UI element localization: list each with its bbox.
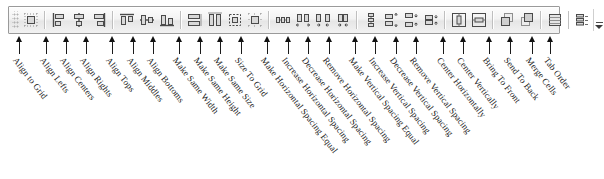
align-bottoms-icon	[159, 12, 175, 28]
center-horizontally-icon	[451, 12, 467, 28]
toolbar-overflow-chevron-icon[interactable]	[593, 9, 604, 31]
toolbar-button-remove-horizontal-spacing[interactable]	[333, 9, 353, 31]
callout-arrow	[547, 36, 554, 54]
center-vertically-icon	[471, 12, 487, 28]
toolbar-button-bring-to-front[interactable]	[497, 9, 517, 31]
callout-arrow	[285, 36, 292, 54]
toolbar-button-make-vertical-spacing-equal[interactable]	[361, 9, 381, 31]
callout-arrow	[109, 36, 116, 54]
toolbar-separator	[356, 11, 358, 29]
callout-arrow	[83, 36, 90, 54]
remove-horizontal-spacing-icon	[335, 12, 351, 28]
callout-arrow	[197, 36, 204, 54]
toolbar-button-decrease-horizontal-spacing[interactable]	[313, 9, 333, 31]
decrease-horizontal-spacing-icon	[315, 12, 331, 28]
toolbar-button-align-bottoms[interactable]	[157, 9, 177, 31]
bring-to-front-icon	[499, 12, 515, 28]
make-same-height-icon	[207, 12, 223, 28]
callout-arrow	[43, 36, 50, 54]
remove-vertical-spacing-icon	[423, 12, 439, 28]
toolbar-button-align-tops[interactable]	[117, 9, 137, 31]
decrease-vertical-spacing-icon	[403, 12, 419, 28]
toolbar-button-align-middles[interactable]	[137, 9, 157, 31]
toolbar-button-center-vertically[interactable]	[469, 9, 489, 31]
make-horizontal-spacing-equal-icon	[275, 12, 291, 28]
toolbar-button-make-same-width[interactable]	[185, 9, 205, 31]
toolbar-separator	[112, 11, 114, 29]
align-tops-icon	[119, 12, 135, 28]
callout-arrow	[16, 36, 23, 54]
toolbar-separator	[268, 11, 270, 29]
align-to-grid-icon	[23, 12, 39, 28]
increase-vertical-spacing-icon	[383, 12, 399, 28]
callout-arrow	[238, 36, 245, 54]
toolbar-button-make-horizontal-spacing-equal[interactable]	[273, 9, 293, 31]
align-rights-icon	[91, 12, 107, 28]
align-centers-icon	[71, 12, 87, 28]
callout-arrow	[176, 36, 183, 54]
callout-arrow	[326, 36, 333, 54]
toolbar-separator	[492, 11, 494, 29]
callout-arrow	[529, 36, 536, 54]
increase-horizontal-spacing-icon	[295, 12, 311, 28]
toolbar-separator	[444, 11, 446, 29]
toolbar-button-align-lefts[interactable]	[49, 9, 69, 31]
callout-arrow	[507, 36, 514, 54]
callout-arrow	[130, 36, 137, 54]
toolbar-button-center-horizontally[interactable]	[449, 9, 469, 31]
size-to-grid-icon	[247, 12, 263, 28]
align-middles-icon	[139, 12, 155, 28]
make-same-width-icon	[187, 12, 203, 28]
toolbar-separator	[568, 11, 570, 29]
toolbar-button-make-same-height[interactable]	[205, 9, 225, 31]
toolbar-separator	[180, 11, 182, 29]
align-lefts-icon	[51, 12, 67, 28]
callout-arrow	[440, 36, 447, 54]
callout-arrow	[486, 36, 493, 54]
toolbar-button-size-to-grid[interactable]	[245, 9, 265, 31]
callout-arrow	[460, 36, 467, 54]
toolbar-button-send-to-back[interactable]	[517, 9, 537, 31]
callout-arrow	[393, 36, 400, 54]
callout-arrow	[352, 36, 359, 54]
callout-arrow	[150, 36, 157, 54]
callout-arrow	[413, 36, 420, 54]
callout-arrow	[264, 36, 271, 54]
toolbar-button-decrease-vertical-spacing[interactable]	[401, 9, 421, 31]
toolbar-button-increase-horizontal-spacing[interactable]	[293, 9, 313, 31]
toolbar-button-align-to-grid[interactable]	[21, 9, 41, 31]
merge-cells-icon	[547, 12, 563, 28]
toolbar-button-merge-cells[interactable]	[545, 9, 565, 31]
layout-toolbar[interactable]	[8, 6, 560, 34]
toolbar-drag-handle[interactable]	[12, 11, 19, 29]
callout-arrow	[372, 36, 379, 54]
tab-order-icon	[575, 12, 591, 28]
toolbar-button-tab-order[interactable]	[573, 9, 593, 31]
make-same-size-icon	[227, 12, 243, 28]
callout-arrow	[217, 36, 224, 54]
toolbar-button-align-centers[interactable]	[69, 9, 89, 31]
toolbar-button-increase-vertical-spacing[interactable]	[381, 9, 401, 31]
callout-arrow	[305, 36, 312, 54]
toolbar-button-remove-vertical-spacing[interactable]	[421, 9, 441, 31]
toolbar-button-align-rights[interactable]	[89, 9, 109, 31]
callout-arrow	[63, 36, 70, 54]
toolbar-button-make-same-size[interactable]	[225, 9, 245, 31]
send-to-back-icon	[519, 12, 535, 28]
make-vertical-spacing-equal-icon	[363, 12, 379, 28]
toolbar-separator	[44, 11, 46, 29]
toolbar-separator	[540, 11, 542, 29]
